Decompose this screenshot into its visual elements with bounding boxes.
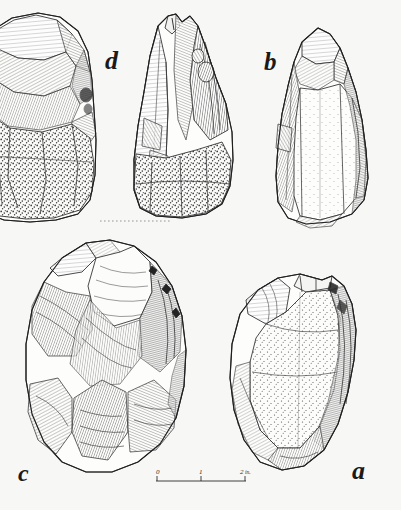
- scale-unit-label: in.: [245, 469, 251, 475]
- scale-tick-0: 0: [156, 468, 160, 476]
- scale-tick-2: 2: [240, 468, 244, 476]
- scale-tick-1: 1: [199, 468, 203, 476]
- specimen-label-b: b: [264, 49, 277, 74]
- plate-artwork: [0, 0, 401, 510]
- specimen-c: [26, 240, 186, 472]
- specimen-label-d: d: [105, 48, 118, 74]
- specimen-label-a: a: [352, 458, 365, 484]
- lithic-illustration-plate: d b c a 0 1 2 in.: [0, 0, 401, 510]
- specimen-label-c: c: [18, 461, 29, 485]
- scale-bar: 0 1 2 in.: [152, 468, 252, 490]
- specimen-d-left: [0, 13, 96, 222]
